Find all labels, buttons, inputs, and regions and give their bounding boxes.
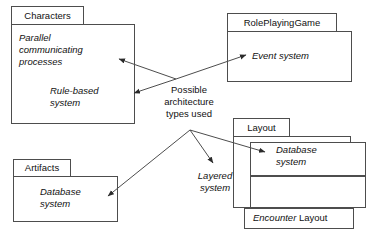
architecture-note: Possible architecture types used: [143, 84, 235, 120]
element-rule-based-system: Rule-based system: [50, 85, 130, 109]
connector-to-artifacts-database-system: [108, 130, 190, 196]
element-parallel-communicating-processes: Parallel communicating processes: [19, 32, 119, 68]
connector-to-parallel-processes: [119, 59, 176, 79]
encounter-italic-text: Encounter: [253, 212, 296, 223]
encounter-regular-text: Layout: [296, 212, 327, 223]
connector-to-layout-database-system: [190, 130, 265, 152]
connector-to-layered-system: [190, 130, 213, 163]
diagram-canvas: Characters Parallel communicating proces…: [0, 0, 366, 236]
box-label-encounter-layout: Encounter Layout: [253, 212, 327, 224]
element-layered-system: Layered system: [186, 170, 244, 194]
element-artifacts-database-system: Database system: [40, 186, 110, 210]
element-layout-database-system: Database system: [276, 144, 356, 168]
element-event-system: Event system: [252, 50, 347, 62]
connector-to-event-system: [176, 55, 246, 79]
